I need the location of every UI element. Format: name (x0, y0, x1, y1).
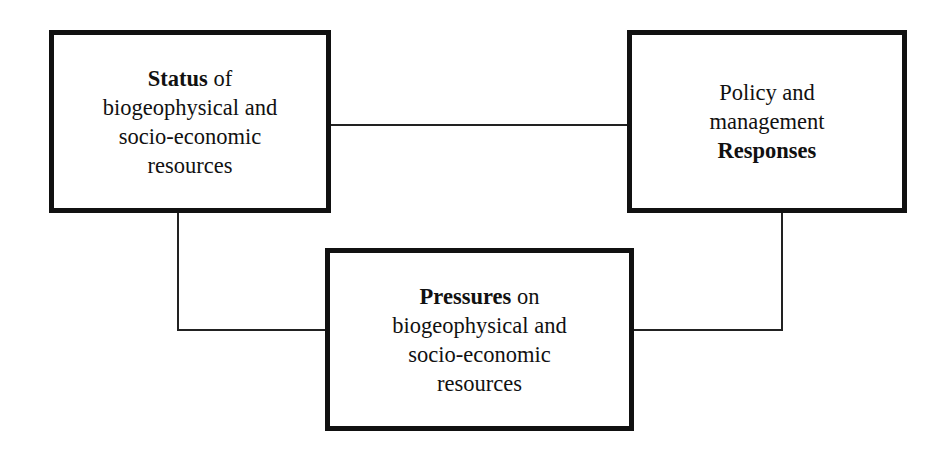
pressures-keyword: Pressures (420, 284, 512, 309)
connector-responses-pressures-vertical (781, 212, 783, 330)
responses-keyword: Responses (718, 138, 817, 163)
status-line-1: Status of (103, 64, 277, 93)
connector-responses-pressures-horizontal (633, 329, 783, 331)
status-line-2: biogeophysical and (103, 93, 277, 122)
pressures-box: Pressures on biogeophysical and socio-ec… (325, 248, 634, 431)
pressures-box-text: Pressures on biogeophysical and socio-ec… (392, 282, 566, 398)
status-box-text: Status of biogeophysical and socio-econo… (103, 64, 277, 180)
responses-box-text: Policy and management Responses (710, 78, 825, 165)
pressures-line-4: resources (392, 369, 566, 398)
pressures-line-1-rest: on (511, 284, 539, 309)
connector-status-responses (330, 124, 628, 126)
pressures-line-2: biogeophysical and (392, 311, 566, 340)
connector-status-pressures-horizontal (177, 329, 326, 331)
responses-line-2: management (710, 107, 825, 136)
pressures-line-1: Pressures on (392, 282, 566, 311)
connector-status-pressures-vertical (177, 212, 179, 330)
psr-framework-diagram: Status of biogeophysical and socio-econo… (0, 0, 951, 455)
responses-line-1: Policy and (710, 78, 825, 107)
pressures-line-3: socio-economic (392, 340, 566, 369)
status-line-4: resources (103, 151, 277, 180)
responses-line-3: Responses (710, 136, 825, 165)
status-keyword: Status (148, 66, 208, 91)
responses-box: Policy and management Responses (627, 30, 907, 213)
status-line-1-rest: of (208, 66, 232, 91)
status-line-3: socio-economic (103, 122, 277, 151)
status-box: Status of biogeophysical and socio-econo… (49, 30, 331, 213)
